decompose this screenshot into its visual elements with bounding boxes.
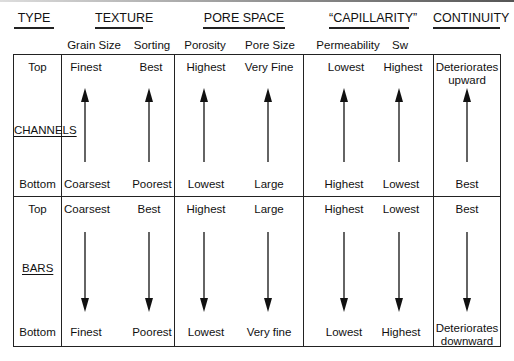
divider-pore-space xyxy=(303,54,304,347)
header-capillarity: “CAPILLARITY” xyxy=(329,11,409,29)
arrow-down-icon xyxy=(198,232,210,312)
channels-bottom-pore-size: Large xyxy=(244,178,294,191)
channels-bottom-permeability: Highest xyxy=(320,178,368,191)
bars-bottom-continuity-line2: downward xyxy=(434,335,500,348)
bars-top-continuity: Best xyxy=(434,203,500,216)
channels-bottom-grain-size: Coarsest xyxy=(64,178,110,191)
channels-top-continuity-line2: upward xyxy=(434,74,500,87)
channels-top-sorting: Best xyxy=(132,61,170,74)
arrow-up-icon xyxy=(198,88,210,162)
header-type: TYPE xyxy=(14,11,54,29)
bars-bottom-pore-size: Very fine xyxy=(240,326,298,339)
channels-bottom-sorting: Poorest xyxy=(130,178,174,191)
bars-top-porosity: Highest xyxy=(183,203,229,216)
bars-bottom-continuity-line1: Deteriorates xyxy=(434,322,500,335)
bars-bottom-porosity: Lowest xyxy=(183,326,229,339)
bars-bottom-grain-size: Finest xyxy=(64,326,108,339)
subheader-sw: Sw xyxy=(385,38,415,52)
divider-type xyxy=(61,54,62,347)
arrow-up-icon xyxy=(461,88,473,162)
arrow-down-icon xyxy=(338,232,350,312)
subheader-sorting: Sorting xyxy=(130,38,174,52)
divider-rows xyxy=(13,196,501,197)
arrow-down-icon xyxy=(79,232,91,312)
header-pore-space: PORE SPACE xyxy=(203,11,285,29)
arrow-up-icon xyxy=(338,88,350,162)
row-label-bars: BARS xyxy=(22,262,53,275)
arrow-up-icon xyxy=(143,88,155,162)
channels-top-porosity: Highest xyxy=(183,61,229,74)
arrow-down-icon xyxy=(461,232,473,312)
bars-top-sw: Lowest xyxy=(378,203,424,216)
channels-position-bottom: Bottom xyxy=(14,178,61,191)
subheader-grain-size: Grain Size xyxy=(64,38,124,52)
arrow-up-icon xyxy=(79,88,91,162)
bars-top-sorting: Best xyxy=(130,203,168,216)
channels-bottom-continuity: Best xyxy=(434,178,500,191)
subheader-pore-size: Pore Size xyxy=(240,38,300,52)
row-label-channels: CHANNELS xyxy=(14,124,77,137)
bars-position-bottom: Bottom xyxy=(14,326,61,339)
bars-bottom-permeability: Lowest xyxy=(320,326,368,339)
bars-position-top: Top xyxy=(14,203,61,216)
bars-top-permeability: Highest xyxy=(320,203,368,216)
header-texture: TEXTURE xyxy=(95,11,143,29)
arrow-down-icon xyxy=(143,232,155,312)
arrow-up-icon xyxy=(262,88,274,162)
channels-top-permeability: Lowest xyxy=(322,61,370,74)
bars-bottom-continuity: Deteriorates downward xyxy=(434,322,500,348)
channels-top-continuity: Deteriorates upward xyxy=(434,61,500,87)
header-continuity: CONTINUITY xyxy=(433,11,500,29)
divider-texture xyxy=(174,54,175,347)
bars-top-pore-size: Large xyxy=(244,203,294,216)
bars-bottom-sw: Highest xyxy=(378,326,424,339)
arrow-up-icon xyxy=(393,88,405,162)
divider-capillarity xyxy=(433,54,434,347)
bars-top-grain-size: Coarsest xyxy=(64,203,110,216)
arrow-down-icon xyxy=(393,232,405,312)
channels-top-sw: Highest xyxy=(380,61,426,74)
channels-top-continuity-line1: Deteriorates xyxy=(434,61,500,74)
arrow-down-icon xyxy=(262,232,274,312)
channels-top-pore-size: Very Fine xyxy=(240,61,298,74)
channels-bottom-sw: Lowest xyxy=(378,178,424,191)
top-border xyxy=(0,0,514,2)
bars-bottom-sorting: Poorest xyxy=(130,326,174,339)
subheader-permeability: Permeability xyxy=(315,38,381,52)
channels-bottom-porosity: Lowest xyxy=(183,178,229,191)
channels-position-top: Top xyxy=(14,61,61,74)
channels-top-grain-size: Finest xyxy=(64,61,108,74)
subheader-porosity: Porosity xyxy=(180,38,230,52)
